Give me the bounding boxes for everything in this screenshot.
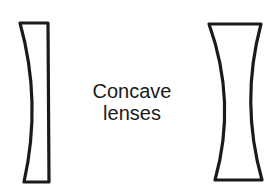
diagram-caption: Concave lenses bbox=[78, 80, 186, 124]
caption-line-1: Concave bbox=[78, 80, 186, 102]
plano-concave-lens bbox=[20, 23, 49, 182]
biconcave-lens bbox=[209, 24, 262, 180]
caption-line-2: lenses bbox=[78, 102, 186, 124]
concave-lenses-diagram: Concave lenses bbox=[0, 0, 279, 195]
